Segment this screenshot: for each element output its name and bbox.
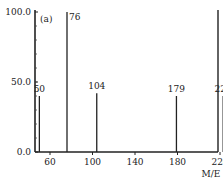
panel-label: (a) [40,14,52,24]
x-tick-label: 180 [169,157,186,167]
x-tick-label: 220 [211,157,223,167]
labels: 5076104179223 [34,12,223,94]
x-axis-label: M/E [202,169,221,179]
peak-label: 104 [88,81,105,91]
x-tick-label: 100 [84,157,101,167]
peaks [39,12,223,152]
mass-spectrum-chart: 0.050.0100.060100140180220M/E(a) 5076104… [0,0,223,182]
x-tick-label: 60 [44,157,56,167]
peak-label: 179 [168,84,185,94]
y-tick-label: 0.0 [17,147,32,157]
peak-label: 223 [215,84,223,94]
peak-label: 50 [34,84,46,94]
peak-label: 76 [69,12,81,22]
y-tick-label: 100.0 [5,7,31,17]
x-tick-label: 140 [126,157,143,167]
y-tick-label: 50.0 [11,77,31,87]
